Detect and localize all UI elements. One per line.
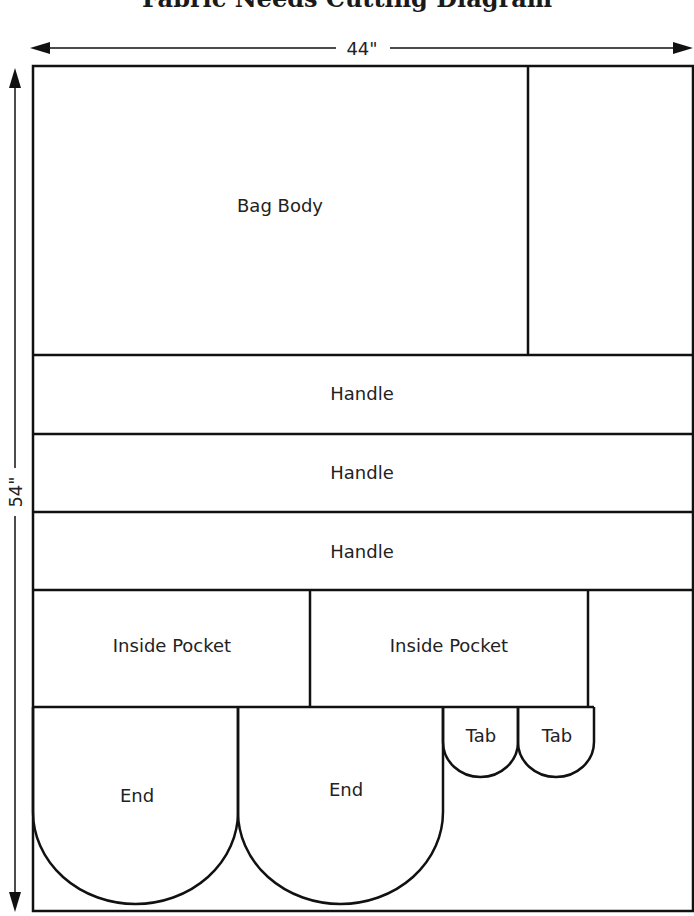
height-label: 54" — [5, 476, 26, 507]
piece-handle-3: Handle — [33, 541, 693, 590]
cutting-diagram: Fabric Needs Cutting Diagram 44" 54" Bag… — [0, 0, 694, 916]
inside-pocket-label: Inside Pocket — [390, 635, 508, 656]
inside-pocket-label: Inside Pocket — [113, 635, 231, 656]
arrow-left-icon — [30, 42, 50, 54]
diagram-title: Fabric Needs Cutting Diagram — [0, 0, 694, 13]
width-label: 44" — [346, 38, 377, 59]
bag-body-label: Bag Body — [237, 195, 323, 216]
end-label: End — [329, 779, 363, 800]
arrow-right-icon — [673, 42, 693, 54]
height-dimension: 54" — [5, 68, 26, 912]
piece-end-1: End — [33, 707, 238, 904]
piece-end-2: End — [238, 707, 443, 904]
handle-label: Handle — [330, 383, 393, 404]
piece-bag-body: Bag Body — [33, 66, 693, 355]
tab-label: Tab — [465, 725, 496, 746]
arrow-down-icon — [9, 892, 21, 912]
handle-label: Handle — [330, 541, 393, 562]
end-label: End — [120, 785, 154, 806]
handle-label: Handle — [330, 462, 393, 483]
width-dimension: 44" — [30, 38, 693, 59]
piece-handle-1: Handle — [33, 383, 693, 434]
tab-label: Tab — [541, 725, 572, 746]
piece-inside-pocket-1: Inside Pocket — [113, 590, 310, 707]
diagram-svg: 44" 54" Bag Body Handle Handle — [0, 0, 694, 916]
piece-tab-2: Tab — [518, 707, 594, 777]
piece-tab-1: Tab — [443, 707, 518, 777]
arrow-up-icon — [9, 68, 21, 88]
piece-handle-2: Handle — [33, 462, 693, 512]
